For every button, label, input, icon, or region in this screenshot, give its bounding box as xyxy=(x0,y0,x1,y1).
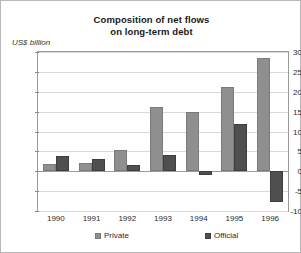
x-axis-label-1995: 1995 xyxy=(226,214,244,223)
bar-private-1996 xyxy=(257,58,270,171)
bar-group xyxy=(74,52,110,211)
bar-private-1991 xyxy=(79,163,92,171)
bar-official-1993 xyxy=(163,155,176,171)
bar-group xyxy=(38,52,74,211)
bar-private-1994 xyxy=(186,112,199,172)
bar-official-1995 xyxy=(234,124,247,171)
bar-official-1991 xyxy=(92,159,105,171)
legend-swatch-official-icon xyxy=(205,233,211,239)
bars-layer xyxy=(38,52,288,211)
bar-group xyxy=(181,52,217,211)
legend-item-private: Private xyxy=(95,231,129,240)
chart-figure: Composition of net flows on long-term de… xyxy=(0,0,301,253)
bar-group xyxy=(217,52,253,211)
bar-private-1993 xyxy=(150,107,163,171)
bar-official-1994 xyxy=(199,171,212,175)
x-axis-label-1996: 1996 xyxy=(261,214,279,223)
chart-legend: Private Official xyxy=(37,231,289,245)
x-axis-label-1994: 1994 xyxy=(190,214,208,223)
bar-private-1990 xyxy=(43,164,56,171)
bar-group xyxy=(145,52,181,211)
chart-title-line-1: Composition of net flows xyxy=(94,14,210,25)
legend-label-official: Official xyxy=(214,231,238,240)
chart-title-line-2: on long-term debt xyxy=(1,26,301,38)
legend-label-private: Private xyxy=(104,231,129,240)
legend-swatch-private-icon xyxy=(95,233,101,239)
x-axis-label-1993: 1993 xyxy=(154,214,172,223)
chart-title: Composition of net flows on long-term de… xyxy=(1,14,301,38)
bar-official-1992 xyxy=(127,165,140,171)
x-axis-label-1991: 1991 xyxy=(83,214,101,223)
gridline xyxy=(38,211,288,212)
bar-private-1992 xyxy=(114,150,127,171)
x-axis-label-1990: 1990 xyxy=(47,214,65,223)
bar-group xyxy=(252,52,288,211)
bar-official-1996 xyxy=(270,171,283,202)
bar-group xyxy=(109,52,145,211)
x-axis-labels: 1990199119921993199419951996 xyxy=(37,214,289,226)
legend-item-official: Official xyxy=(205,231,238,240)
plot-area xyxy=(37,51,289,212)
x-axis-label-1992: 1992 xyxy=(118,214,136,223)
bar-official-1990 xyxy=(56,156,69,172)
y-axis-unit-label: US$ billion xyxy=(12,38,50,47)
bar-private-1995 xyxy=(221,87,234,172)
